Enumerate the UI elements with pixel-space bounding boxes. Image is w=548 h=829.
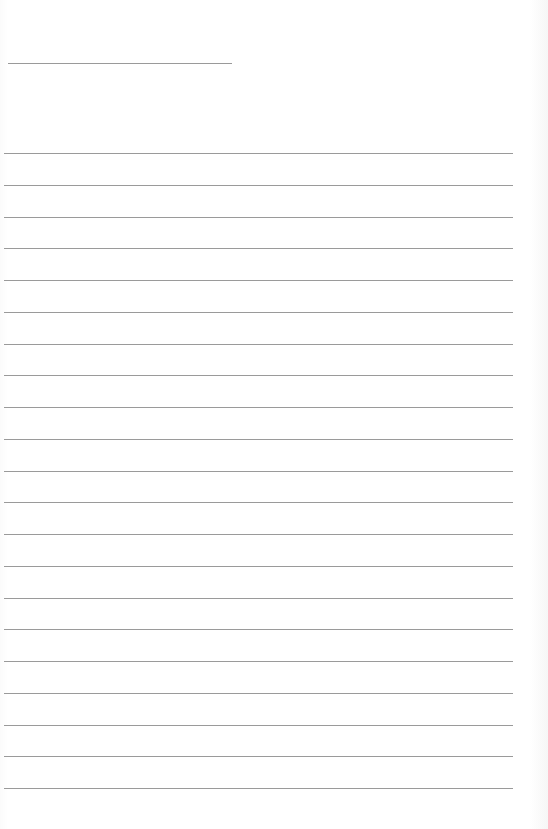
ruled-lines xyxy=(0,0,548,829)
ruled-line xyxy=(4,217,513,218)
ruled-line xyxy=(4,344,513,345)
ruled-line xyxy=(4,566,513,567)
ruled-line xyxy=(4,439,513,440)
ruled-line xyxy=(4,248,513,249)
ruled-line xyxy=(4,375,513,376)
ruled-line xyxy=(4,534,513,535)
ruled-line xyxy=(4,471,513,472)
ruled-line xyxy=(4,280,513,281)
lined-paper-page xyxy=(0,0,548,829)
ruled-line xyxy=(4,788,513,789)
ruled-line xyxy=(4,598,513,599)
ruled-line xyxy=(4,756,513,757)
ruled-line xyxy=(4,312,513,313)
ruled-line xyxy=(4,407,513,408)
ruled-line xyxy=(4,661,513,662)
ruled-line xyxy=(4,153,513,154)
ruled-line xyxy=(4,725,513,726)
ruled-line xyxy=(4,502,513,503)
ruled-line xyxy=(4,629,513,630)
ruled-line xyxy=(4,185,513,186)
ruled-line xyxy=(4,693,513,694)
